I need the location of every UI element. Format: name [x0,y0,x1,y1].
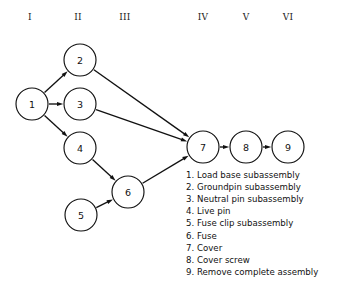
node-label-3: 3 [77,99,83,110]
node-label-1: 1 [29,99,35,110]
column-header-v: V [242,12,250,22]
node-4[interactable]: 4 [64,132,96,164]
legend-item-label: Load base subassembly [197,170,300,180]
node-label-8: 8 [243,142,249,153]
legend-item-number: 1. [186,170,194,180]
legend-item: 4.Live pin [186,206,231,216]
legend-item: 8.Cover screw [186,255,250,265]
legend-list: 1.Load base subassembly2.Groundpin subas… [186,170,318,277]
legend-item-number: 3. [186,194,194,204]
column-header-iii: III [119,12,131,22]
legend-item: 9.Remove complete assembly [186,267,318,277]
edge-4-to-6 [93,159,113,177]
legend-item-number: 6. [186,231,194,241]
node-label-4: 4 [77,143,83,154]
legend-item-label: Cover screw [197,255,250,265]
legend-item-label: Groundpin subassembly [197,182,301,192]
column-header-row: IIIIIIIVVVI [28,12,293,22]
column-header-vi: VI [282,12,294,22]
arrowhead-8-to-9 [265,145,271,149]
arrowhead-3-to-7 [181,138,188,142]
arrowhead-7-to-8 [223,145,229,149]
node-8[interactable]: 8 [230,131,262,163]
diagram-canvas: IIIIIIIVVVI 123456789 1.Load base subass… [0,0,350,293]
legend-item: 6.Fuse [186,231,217,241]
legend-item-number: 8. [186,255,194,265]
legend-item-label: Fuse [197,231,217,241]
node-6[interactable]: 6 [112,176,144,208]
edge-5-to-6 [96,201,108,207]
node-label-2: 2 [77,55,83,66]
legend-item-label: Fuse clip subassembly [197,218,293,228]
arrowhead-6-to-7 [182,156,188,161]
node-label-5: 5 [78,210,84,221]
legend-item-number: 4. [186,206,194,216]
legend-item-number: 5. [186,218,194,228]
node-label-9: 9 [285,142,291,153]
legend-item-label: Live pin [197,206,231,216]
node-3[interactable]: 3 [64,88,96,120]
edge-1-to-2 [45,75,65,93]
legend-item: 1.Load base subassembly [186,170,300,180]
node-7[interactable]: 7 [187,131,219,163]
edge-1-to-4 [45,115,65,133]
node-label-6: 6 [125,187,131,198]
node-1[interactable]: 1 [16,88,48,120]
edge-6-to-7 [143,158,185,183]
node-9[interactable]: 9 [272,131,304,163]
edge-3-to-7 [96,110,183,140]
column-header-i: I [28,12,32,22]
legend-item-label: Neutral pin subassembly [197,194,304,204]
legend-item: 7.Cover [186,243,223,253]
arrowhead-1-to-3 [57,102,63,106]
legend-item: 2.Groundpin subassembly [186,182,301,192]
node-label-7: 7 [200,142,206,153]
node-2[interactable]: 2 [64,44,96,76]
legend-item-number: 9. [186,267,194,277]
legend-item-label: Cover [197,243,223,253]
node-5[interactable]: 5 [65,199,97,231]
column-header-iv: IV [198,12,209,22]
column-header-ii: II [74,12,82,22]
arrowhead-5-to-6 [106,199,112,204]
legend-item-label: Remove complete assembly [197,267,318,277]
legend-item-number: 7. [186,243,194,253]
legend-item: 3.Neutral pin subassembly [186,194,304,204]
legend-item-number: 2. [186,182,194,192]
assembly-precedence-diagram: IIIIIIIVVVI 123456789 1.Load base subass… [0,0,350,293]
legend-item: 5.Fuse clip subassembly [186,218,293,228]
